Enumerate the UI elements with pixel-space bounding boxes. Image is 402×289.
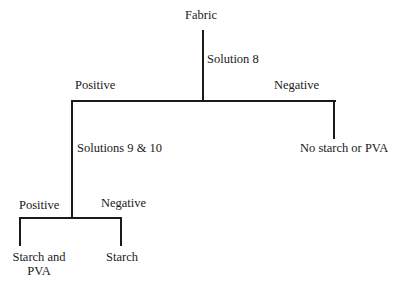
result-no-starch-or-pva: No starch or PVA bbox=[300, 141, 388, 155]
root-node-fabric: Fabric bbox=[185, 8, 217, 22]
sub-positive-line bbox=[19, 217, 21, 246]
flowchart-diagram: Fabric Solution 8 Positive Negative No s… bbox=[0, 0, 402, 289]
test-label-solution-8: Solution 8 bbox=[207, 52, 259, 66]
sub-branch-label-positive: Positive bbox=[19, 198, 59, 212]
test-label-solutions-9-10: Solutions 9 & 10 bbox=[77, 141, 162, 155]
sub-branch-label-negative: Negative bbox=[101, 196, 146, 210]
branch-label-negative: Negative bbox=[274, 78, 319, 92]
result-starch-and-pva: Starch and PVA bbox=[8, 250, 70, 278]
result-starch-and-pva-line1: Starch and bbox=[8, 250, 70, 264]
split-1-horizontal-line bbox=[71, 100, 336, 102]
split-2-horizontal-line bbox=[19, 217, 122, 219]
root-stem-line bbox=[202, 30, 204, 102]
negative-branch-line bbox=[333, 100, 335, 139]
positive-branch-line bbox=[71, 100, 73, 219]
branch-label-positive: Positive bbox=[75, 78, 115, 92]
result-starch: Starch bbox=[106, 250, 138, 264]
sub-negative-line bbox=[120, 217, 122, 246]
result-starch-and-pva-line2: PVA bbox=[8, 264, 70, 278]
